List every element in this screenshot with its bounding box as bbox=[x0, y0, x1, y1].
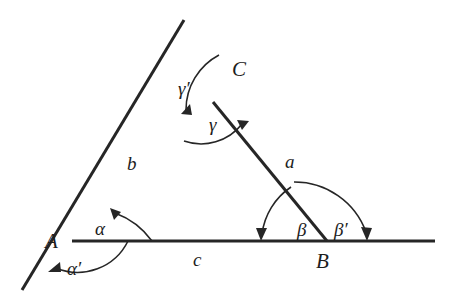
side-label-a: a bbox=[285, 151, 295, 172]
vertex-label-B: B bbox=[316, 249, 329, 273]
diagram-lines bbox=[22, 20, 435, 290]
angle-label-beta-prime: β′ bbox=[333, 219, 348, 240]
alpha-prime-arrowhead bbox=[48, 262, 61, 272]
alpha-arc bbox=[115, 213, 152, 241]
triangle-diagram-svg: A B C a b c α α′ β β′ γ γ′ bbox=[0, 0, 452, 298]
beta-arrowhead bbox=[256, 228, 267, 241]
angle-label-gamma-prime: γ′ bbox=[178, 78, 190, 99]
angle-labels: α α′ β β′ γ γ′ bbox=[67, 78, 348, 279]
side-label-b: b bbox=[127, 153, 137, 174]
beta-prime-arrowhead bbox=[361, 227, 372, 241]
side-label-c: c bbox=[193, 249, 202, 270]
vertex-label-C: C bbox=[232, 57, 247, 81]
line-a bbox=[213, 102, 327, 241]
angle-label-gamma: γ bbox=[209, 114, 217, 135]
angle-label-beta: β bbox=[296, 219, 307, 240]
vertex-label-A: A bbox=[43, 229, 58, 253]
geometry-figure: A B C a b c α α′ β β′ γ γ′ bbox=[0, 0, 452, 298]
angle-label-alpha: α bbox=[95, 218, 106, 239]
angle-label-alpha-prime: α′ bbox=[67, 258, 82, 279]
